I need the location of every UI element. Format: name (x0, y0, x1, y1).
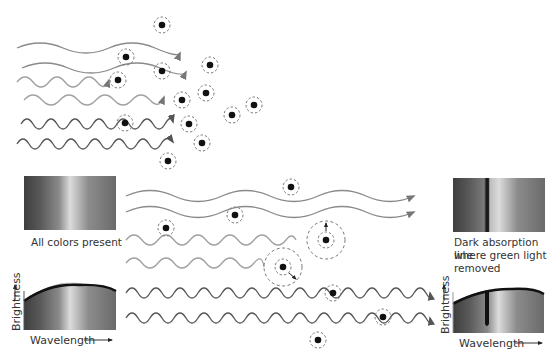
atom (198, 85, 214, 101)
absorption-waves (126, 191, 431, 324)
absorption-caption-line2: where green light (454, 249, 547, 262)
atom (181, 116, 197, 132)
atom (117, 115, 133, 131)
atom (154, 17, 170, 33)
wave-green-absorbed-2 (126, 258, 264, 268)
atom (158, 220, 174, 236)
wave-mid-2 (24, 95, 164, 105)
atom (160, 153, 176, 169)
left-wavelength-axis-label: Wavelength (30, 334, 95, 347)
atom (202, 57, 218, 73)
atom (118, 49, 134, 65)
right-brightness-axis-label: Brightness (439, 275, 452, 334)
atom (194, 135, 210, 151)
atom (224, 107, 240, 123)
left-brightness-axis-label: Brightness (10, 272, 23, 331)
atom (325, 285, 341, 301)
atom (283, 179, 299, 195)
wave-short-pass-1 (126, 288, 431, 298)
atom (310, 332, 326, 348)
scattering-waves (17, 43, 186, 149)
wave-long-pass-1 (126, 191, 414, 202)
atom (110, 72, 126, 88)
excited-atom (264, 248, 302, 286)
continuous-spectrum (24, 176, 116, 230)
wave-mid-1 (17, 77, 109, 87)
wave-long-1 (17, 43, 180, 55)
scattering-atoms (110, 17, 262, 169)
absorption-spectrum (453, 178, 545, 232)
diagram-canvas (0, 0, 555, 364)
continuous-spectrum-caption: All colors present (31, 236, 122, 249)
wave-short-2 (17, 138, 173, 149)
atom (174, 92, 190, 108)
right-brightness-graph (444, 285, 544, 343)
wave-short-1 (21, 118, 173, 129)
right-wavelength-axis-label: Wavelength (459, 337, 524, 350)
atom (246, 97, 262, 113)
wave-long-pass-2 (126, 207, 414, 218)
wave-green-absorbed-1 (126, 235, 296, 245)
absorption-caption-line3: removed (454, 262, 501, 275)
left-brightness-graph (15, 283, 116, 340)
excited-atom (307, 221, 345, 259)
